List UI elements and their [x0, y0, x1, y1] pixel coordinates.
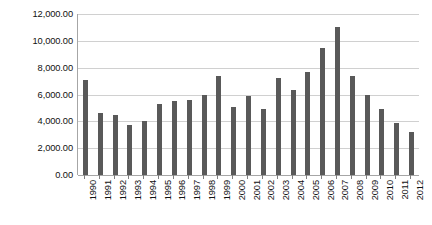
- x-tick-mark: [321, 175, 322, 179]
- tick-slot: [196, 175, 211, 179]
- bar-slot: [360, 14, 375, 175]
- bar-slot: [108, 14, 123, 175]
- bar-slot: [330, 14, 345, 175]
- bar-slot: [226, 14, 241, 175]
- tick-slot: [403, 175, 418, 179]
- tick-slot: [344, 175, 359, 179]
- x-label-slot: 1990: [77, 180, 92, 225]
- bar[interactable]: [261, 109, 266, 175]
- x-tick-mark: [158, 175, 159, 179]
- x-tick-mark: [351, 175, 352, 179]
- x-tick-mark: [366, 175, 367, 179]
- bar[interactable]: [291, 90, 296, 175]
- x-label-slot: 2006: [314, 180, 329, 225]
- bar[interactable]: [320, 48, 325, 175]
- x-axis: 1990199119921993199419951996199719981999…: [77, 180, 418, 225]
- tick-slot: [299, 175, 314, 179]
- x-tick-mark: [306, 175, 307, 179]
- tick-slot: [270, 175, 285, 179]
- tick-slot: [136, 175, 151, 179]
- bar[interactable]: [350, 76, 355, 175]
- tick-slot: [329, 175, 344, 179]
- bar-series: [78, 14, 419, 175]
- bar[interactable]: [187, 100, 192, 175]
- x-label-slot: 2010: [374, 180, 389, 225]
- x-axis-ticks: [77, 175, 418, 179]
- y-tick-label: 0.00: [0, 170, 73, 180]
- x-label-slot: 2000: [225, 180, 240, 225]
- x-tick-mark: [232, 175, 233, 179]
- x-tick-mark: [114, 175, 115, 179]
- tick-slot: [374, 175, 389, 179]
- x-label-slot: 1996: [166, 180, 181, 225]
- bar-slot: [122, 14, 137, 175]
- bar[interactable]: [276, 78, 281, 175]
- x-label-slot: 1994: [136, 180, 151, 225]
- tick-slot: [181, 175, 196, 179]
- y-tick-label: 12,000.00: [0, 9, 73, 19]
- x-label-slot: 1999: [210, 180, 225, 225]
- bar-slot: [315, 14, 330, 175]
- x-tick-mark: [262, 175, 263, 179]
- x-tick-mark: [410, 175, 411, 179]
- bar-slot: [271, 14, 286, 175]
- bar-slot: [137, 14, 152, 175]
- tick-slot: [255, 175, 270, 179]
- bar[interactable]: [127, 125, 132, 175]
- bar[interactable]: [231, 107, 236, 175]
- x-tick-mark: [380, 175, 381, 179]
- bar[interactable]: [142, 121, 147, 175]
- x-tick-label: 2012: [415, 180, 425, 200]
- bar[interactable]: [202, 95, 207, 176]
- bar[interactable]: [113, 115, 118, 175]
- tick-slot: [388, 175, 403, 179]
- x-label-slot: 1997: [181, 180, 196, 225]
- x-tick-mark: [292, 175, 293, 179]
- bar[interactable]: [98, 113, 103, 175]
- bar-slot: [93, 14, 108, 175]
- bar[interactable]: [394, 123, 399, 175]
- bar-slot: [197, 14, 212, 175]
- x-tick-mark: [128, 175, 129, 179]
- bar[interactable]: [216, 76, 221, 175]
- x-label-slot: 1992: [107, 180, 122, 225]
- bar-slot: [167, 14, 182, 175]
- tick-slot: [285, 175, 300, 179]
- tick-slot: [225, 175, 240, 179]
- bar-slot: [78, 14, 93, 175]
- x-tick-mark: [84, 175, 85, 179]
- bar-slot: [286, 14, 301, 175]
- x-label-slot: 1998: [196, 180, 211, 225]
- bar-chart: 0.002,000.004,000.006,000.008,000.0010,0…: [0, 0, 432, 225]
- bar[interactable]: [365, 95, 370, 176]
- x-tick-mark: [99, 175, 100, 179]
- x-tick-mark: [277, 175, 278, 179]
- bar-slot: [389, 14, 404, 175]
- x-label-slot: 2011: [388, 180, 403, 225]
- bar-slot: [211, 14, 226, 175]
- tick-slot: [77, 175, 92, 179]
- x-tick-mark: [173, 175, 174, 179]
- tick-slot: [210, 175, 225, 179]
- x-label-slot: 2003: [270, 180, 285, 225]
- x-tick-mark: [143, 175, 144, 179]
- bar[interactable]: [379, 109, 384, 175]
- x-tick-mark: [188, 175, 189, 179]
- bar[interactable]: [246, 96, 251, 175]
- bar[interactable]: [172, 101, 177, 175]
- bar-slot: [345, 14, 360, 175]
- bar[interactable]: [335, 27, 340, 175]
- x-label-slot: 2012: [403, 180, 418, 225]
- bar[interactable]: [157, 104, 162, 175]
- x-label-slot: 1993: [121, 180, 136, 225]
- bar-slot: [300, 14, 315, 175]
- x-tick-mark: [336, 175, 337, 179]
- bar[interactable]: [83, 80, 88, 175]
- bar[interactable]: [409, 132, 414, 175]
- bar-slot: [375, 14, 390, 175]
- x-label-slot: 2005: [299, 180, 314, 225]
- x-label-slot: 1991: [92, 180, 107, 225]
- tick-slot: [359, 175, 374, 179]
- x-tick-mark: [203, 175, 204, 179]
- bar[interactable]: [305, 72, 310, 175]
